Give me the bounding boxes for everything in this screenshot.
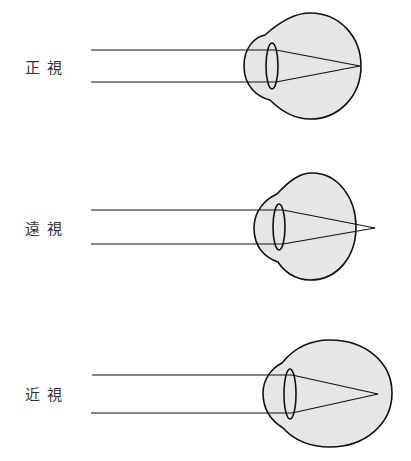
eye-refraction-diagram [0, 0, 411, 461]
eye-myopia [91, 340, 392, 447]
eye-hyperopia [91, 173, 375, 280]
eye-emmetropia [91, 13, 361, 119]
